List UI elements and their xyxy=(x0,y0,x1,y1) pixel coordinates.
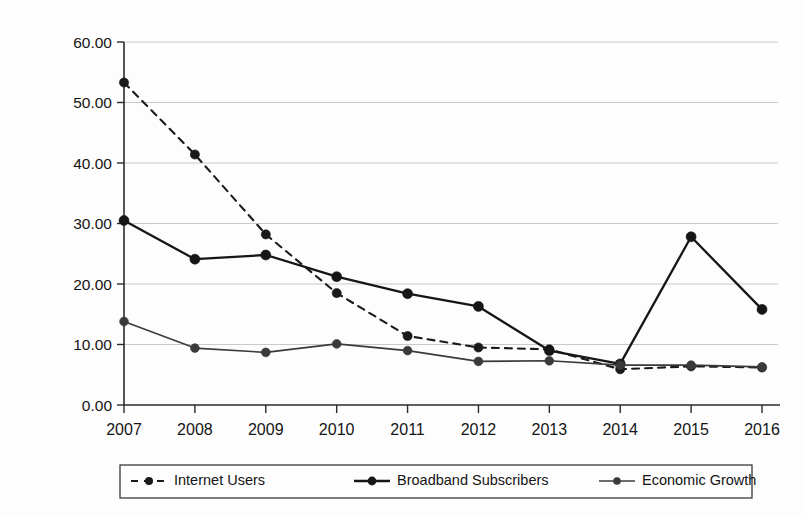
x-tick-label: 2016 xyxy=(744,421,780,438)
data-point xyxy=(191,344,200,353)
data-point xyxy=(403,331,412,340)
x-tick-label: 2015 xyxy=(673,421,709,438)
y-tick-label: 50.00 xyxy=(73,94,112,111)
data-point xyxy=(119,78,128,87)
x-tick-label: 2007 xyxy=(106,421,142,438)
x-axis-ticks: 2007200820092010201120122013201420152016 xyxy=(106,405,780,438)
chart-legend: Internet UsersBroadband SubscribersEcono… xyxy=(120,465,756,498)
data-point xyxy=(403,346,412,355)
x-tick-label: 2010 xyxy=(319,421,355,438)
y-tick-label: 60.00 xyxy=(73,34,112,51)
series-broadband-subscribers xyxy=(119,216,767,369)
y-tick-label: 40.00 xyxy=(73,155,112,172)
y-tick-label: 20.00 xyxy=(73,276,112,293)
data-point xyxy=(332,272,342,282)
line-chart: 0.0010.0020.0030.0040.0050.0060.00 20072… xyxy=(0,0,805,516)
data-point xyxy=(758,363,767,372)
data-point xyxy=(474,357,483,366)
x-tick-label: 2008 xyxy=(177,421,213,438)
data-point xyxy=(474,343,483,352)
y-tick-label: 30.00 xyxy=(73,215,112,232)
series-internet-users xyxy=(119,78,766,374)
data-point xyxy=(261,230,270,239)
data-point xyxy=(687,361,696,370)
legend-marker xyxy=(368,477,377,486)
data-point xyxy=(616,361,625,370)
legend-item-broadband-subscribers[interactable]: Broadband Subscribers xyxy=(354,472,549,488)
data-point xyxy=(261,250,271,260)
x-tick-label: 2011 xyxy=(390,421,425,438)
y-tick-label: 10.00 xyxy=(73,336,112,353)
data-point xyxy=(261,348,270,357)
data-point xyxy=(403,289,413,299)
legend-marker xyxy=(145,477,153,485)
chart-canvas: 0.0010.0020.0030.0040.0050.0060.00 20072… xyxy=(0,0,805,516)
legend-label: Broadband Subscribers xyxy=(397,472,549,488)
data-point xyxy=(332,289,341,298)
legend-item-internet-users[interactable]: Internet Users xyxy=(131,472,265,488)
data-point xyxy=(119,216,129,226)
x-tick-label: 2012 xyxy=(461,421,497,438)
legend-item-economic-growth[interactable]: Economic Growth xyxy=(599,472,756,488)
data-point xyxy=(545,356,554,365)
series-line xyxy=(124,83,762,370)
data-point xyxy=(473,301,483,311)
y-axis-ticks: 0.0010.0020.0030.0040.0050.0060.00 xyxy=(73,34,124,414)
chart-screenshot: 0.0010.0020.0030.0040.0050.0060.00 20072… xyxy=(0,0,805,516)
data-point xyxy=(686,232,696,242)
data-point xyxy=(544,346,554,356)
legend-marker xyxy=(613,477,621,485)
data-point xyxy=(120,317,129,326)
y-tick-label: 0.00 xyxy=(82,397,113,414)
data-series-layer xyxy=(119,78,767,374)
data-point xyxy=(190,254,200,264)
x-tick-label: 2014 xyxy=(602,421,638,438)
legend-label: Internet Users xyxy=(174,472,265,488)
x-tick-label: 2013 xyxy=(532,421,568,438)
data-point xyxy=(190,150,199,159)
x-tick-label: 2009 xyxy=(248,421,284,438)
data-point xyxy=(757,304,767,314)
data-point xyxy=(332,340,341,349)
legend-label: Economic Growth xyxy=(642,472,756,488)
gridlines xyxy=(124,42,778,345)
